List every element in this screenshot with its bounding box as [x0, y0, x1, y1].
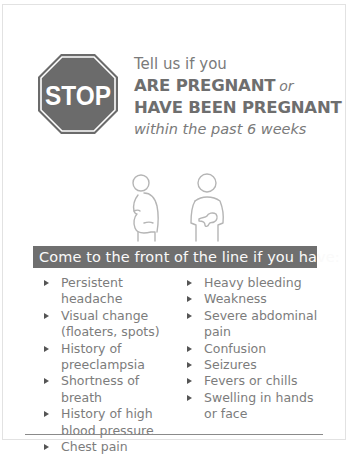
symptom-label: Confusion: [204, 341, 266, 356]
list-item: Persistent headache: [44, 275, 174, 308]
symptom-label: Severe abdominal pain: [204, 308, 317, 339]
stop-sign-label: STOP: [45, 81, 111, 111]
list-item: Heavy bleeding: [187, 275, 322, 291]
are-pregnant-text: ARE PREGNANT: [134, 76, 275, 95]
list-item: Fevers or chills: [187, 373, 322, 389]
bullet-triangle-icon: [187, 280, 192, 286]
list-item: Severe abdominal pain: [187, 308, 322, 341]
bottom-divider: [25, 434, 323, 435]
symptom-label: Visual change (floaters, spots): [61, 308, 160, 339]
headline-line-2: ARE PREGNANTor: [134, 75, 349, 97]
symptom-label: Persistent headache: [61, 275, 123, 306]
symptom-label: Shortness of breath: [61, 373, 139, 404]
list-item: History of preeclampsia: [44, 341, 174, 374]
symptom-list-right: Heavy bleeding Weakness Severe abdominal…: [187, 275, 322, 423]
illustrations: [125, 170, 235, 242]
front-of-line-banner: Come to the front of the line if you hav…: [33, 246, 317, 268]
symptom-label: Fevers or chills: [204, 373, 297, 388]
bullet-triangle-icon: [44, 313, 49, 319]
list-item: Seizures: [187, 357, 322, 373]
symptom-label: History of high blood pressure: [61, 406, 154, 437]
bullet-triangle-icon: [44, 346, 49, 352]
headline-line-4: within the past 6 weeks: [134, 119, 349, 139]
bullet-triangle-icon: [44, 411, 49, 417]
symptom-label: History of preeclampsia: [61, 341, 145, 372]
bullet-triangle-icon: [187, 378, 192, 384]
list-item: Confusion: [187, 341, 322, 357]
bullet-triangle-icon: [44, 444, 49, 450]
list-item: Weakness: [187, 291, 322, 307]
headline: Tell us if you ARE PREGNANTor HAVE BEEN …: [134, 54, 349, 139]
bullet-triangle-icon: [187, 395, 192, 401]
stop-sign-icon: STOP: [37, 53, 119, 135]
headline-line-1: Tell us if you: [134, 54, 349, 75]
list-item: Chest pain: [44, 439, 174, 455]
or-text: or: [279, 78, 293, 94]
list-item: Visual change (floaters, spots): [44, 308, 174, 341]
bullet-triangle-icon: [44, 378, 49, 384]
bullet-triangle-icon: [187, 346, 192, 352]
symptom-list-left: Persistent headache Visual change (float…: [44, 275, 174, 455]
symptom-label: Seizures: [204, 357, 257, 372]
list-item: Shortness of breath: [44, 373, 174, 406]
bullet-triangle-icon: [187, 313, 192, 319]
symptom-label: Heavy bleeding: [204, 275, 302, 290]
person-holding-baby-icon: [191, 174, 223, 241]
pregnant-person-icon: [133, 175, 158, 241]
bullet-triangle-icon: [44, 280, 49, 286]
symptom-label: Weakness: [204, 291, 267, 306]
symptom-label: Chest pain: [61, 439, 128, 454]
bullet-triangle-icon: [187, 296, 192, 302]
headline-line-3: HAVE BEEN PREGNANT: [134, 97, 349, 119]
bullet-triangle-icon: [187, 362, 192, 368]
symptom-label: Swelling in hands or face: [204, 390, 313, 421]
list-item: Swelling in hands or face: [187, 390, 322, 423]
